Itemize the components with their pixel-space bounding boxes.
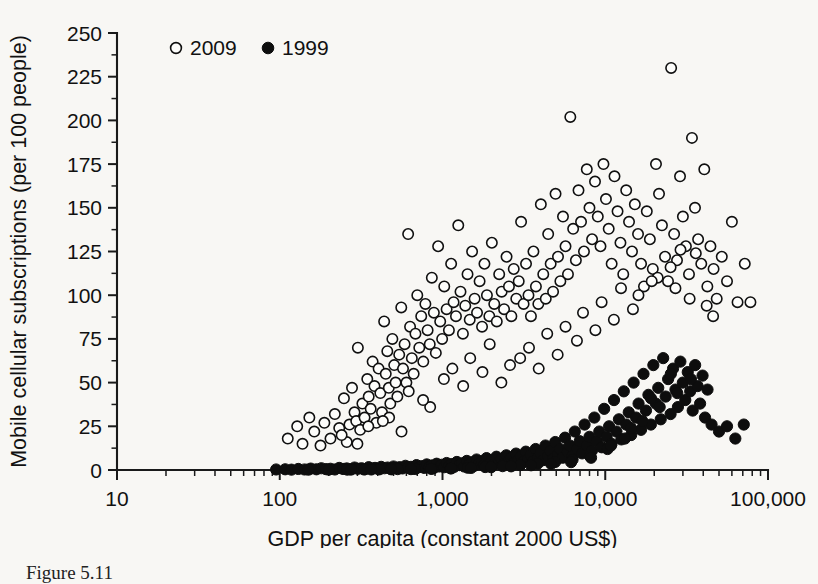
data-point-2009: [616, 283, 626, 293]
y-tick-label: 175: [67, 153, 102, 176]
data-point-2009: [378, 416, 388, 426]
data-point-2009: [444, 325, 454, 335]
data-point-2009: [523, 290, 533, 300]
data-point-2009: [712, 294, 722, 304]
data-point-1999: [697, 370, 708, 381]
x-tick-label: 100,000: [730, 487, 806, 510]
data-point-2009: [431, 348, 441, 358]
data-point-2009: [633, 290, 643, 300]
data-point-1999: [425, 463, 436, 474]
y-tick-label: 75: [79, 327, 102, 350]
data-point-1999: [619, 433, 630, 444]
y-tick-label: 0: [90, 459, 102, 482]
data-point-2009: [446, 259, 456, 269]
data-point-1999: [658, 353, 669, 364]
data-point-1999: [645, 393, 656, 404]
data-point-2009: [422, 325, 432, 335]
data-point-2009: [601, 194, 611, 204]
data-point-2009: [615, 238, 625, 248]
data-point-2009: [642, 206, 652, 216]
data-point-2009: [684, 269, 694, 279]
data-point-2009: [472, 307, 482, 317]
data-point-2009: [447, 363, 457, 373]
data-point-2009: [352, 439, 362, 449]
data-point-1999: [466, 462, 477, 473]
data-point-2009: [516, 217, 526, 227]
data-point-2009: [550, 189, 560, 199]
data-point-2009: [630, 199, 640, 209]
data-point-2009: [669, 229, 679, 239]
y-tick-label: 200: [67, 109, 102, 132]
data-point-2009: [675, 171, 685, 181]
data-point-2009: [364, 391, 374, 401]
data-point-2009: [489, 299, 499, 309]
data-point-2009: [732, 297, 742, 307]
data-point-2009: [479, 259, 489, 269]
data-point-1999: [605, 440, 616, 451]
data-point-2009: [451, 311, 461, 321]
data-point-2009: [485, 339, 495, 349]
data-point-1999: [446, 463, 457, 474]
data-point-1999: [628, 377, 639, 388]
data-point-1999: [589, 412, 600, 423]
data-point-2009: [654, 189, 664, 199]
data-point-1999: [675, 356, 686, 367]
data-point-1999: [506, 461, 517, 472]
data-point-2009: [515, 353, 525, 363]
data-point-2009: [382, 346, 392, 356]
data-point-2009: [717, 252, 727, 262]
data-point-2009: [420, 299, 430, 309]
data-point-2009: [678, 211, 688, 221]
data-point-1999: [625, 422, 636, 433]
data-point-2009: [315, 440, 325, 450]
data-point-2009: [453, 220, 463, 230]
data-point-2009: [609, 314, 619, 324]
data-point-2009: [624, 217, 634, 227]
data-point-1999: [405, 464, 416, 475]
data-point-1999: [579, 419, 590, 430]
data-point-2009: [319, 418, 329, 428]
data-point-2009: [675, 245, 685, 255]
data-point-2009: [633, 229, 643, 239]
data-point-2009: [528, 246, 538, 256]
data-point-2009: [571, 255, 581, 265]
data-point-2009: [621, 185, 631, 195]
data-point-2009: [439, 374, 449, 384]
data-point-2009: [477, 321, 487, 331]
data-point-2009: [563, 269, 573, 279]
data-point-1999: [721, 421, 732, 432]
data-point-2009: [418, 395, 428, 405]
data-point-2009: [435, 316, 445, 326]
data-point-2009: [609, 171, 619, 181]
data-point-2009: [598, 159, 608, 169]
data-point-2009: [708, 264, 718, 274]
data-point-1999: [694, 398, 705, 409]
data-point-2009: [687, 133, 697, 143]
data-point-2009: [297, 439, 307, 449]
x-tick-label: 10,000: [573, 487, 637, 510]
data-point-2009: [590, 176, 600, 186]
data-point-2009: [627, 246, 637, 256]
y-tick-label: 250: [67, 22, 102, 45]
data-point-2009: [572, 335, 582, 345]
data-point-1999: [690, 360, 701, 371]
data-point-2009: [506, 311, 516, 321]
data-point-2009: [618, 269, 628, 279]
data-point-2009: [387, 334, 397, 344]
data-point-1999: [346, 464, 357, 475]
legend-marker-2009: [171, 43, 182, 54]
data-point-2009: [636, 259, 646, 269]
legend-label-2009: 2009: [190, 36, 237, 59]
data-point-2009: [593, 211, 603, 221]
data-point-1999: [654, 401, 665, 412]
data-point-2009: [363, 421, 373, 431]
data-point-2009: [665, 262, 675, 272]
data-point-2009: [501, 252, 511, 262]
data-point-1999: [702, 384, 713, 395]
data-point-2009: [543, 229, 553, 239]
data-point-2009: [474, 276, 484, 286]
data-point-2009: [496, 377, 506, 387]
legend-marker-1999: [262, 42, 274, 54]
data-point-2009: [690, 203, 700, 213]
data-point-2009: [412, 290, 422, 300]
